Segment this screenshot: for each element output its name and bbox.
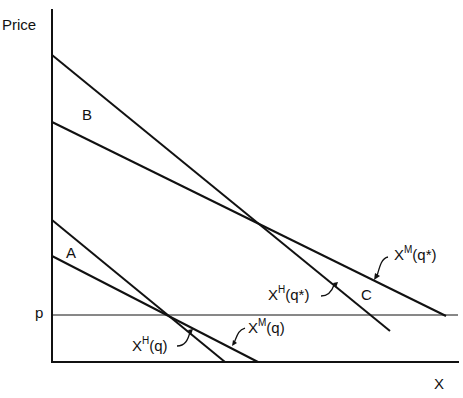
hicksian-q-label: XH(q) (132, 338, 168, 353)
diagram-canvas (0, 0, 463, 398)
region-a-label: A (66, 245, 76, 260)
leader-hicksian-q (177, 332, 190, 346)
leader-hicksian-qstar (321, 285, 334, 296)
leader-marshallian-qstar (377, 257, 388, 276)
leader-marshallian-q (234, 328, 245, 343)
hicksian-qstar-curve (52, 55, 390, 331)
price-level-label: p (35, 305, 43, 320)
y-axis-label: Price (2, 17, 36, 32)
hicksian-qstar-label: XH(q*) (268, 287, 309, 302)
marshallian-q-label: XM(q) (248, 320, 285, 335)
region-b-label: B (82, 107, 92, 122)
marshallian-qstar-label: XM(q*) (394, 247, 437, 262)
x-axis-label: X (434, 376, 444, 391)
region-c-label: C (361, 287, 372, 302)
